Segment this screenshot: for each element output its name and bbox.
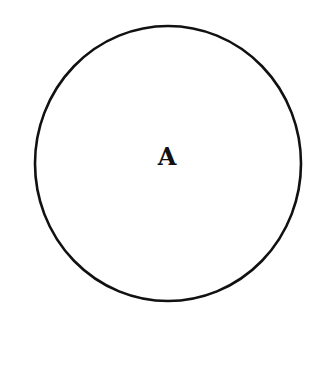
venn-diagram: A <box>0 0 322 377</box>
set-a-label: A <box>157 142 177 171</box>
